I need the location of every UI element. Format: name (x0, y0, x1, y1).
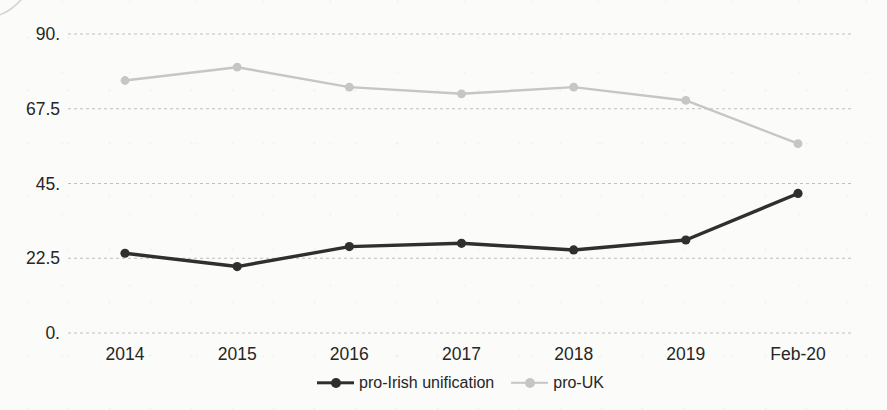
data-point-pro-irish-unification (345, 242, 354, 251)
x-tick-label: 2019 (666, 344, 705, 364)
y-tick-label: 45. (36, 174, 60, 194)
legend: pro-Irish unificationpro-UK (68, 371, 853, 395)
y-tick-label: 22.5 (26, 248, 60, 268)
line-chart: 0.22.545.67.590.201420152016201720182019… (0, 0, 887, 410)
data-point-pro-uk (569, 83, 578, 92)
data-point-pro-irish-unification (457, 239, 466, 248)
legend-item-pro-irish-unification: pro-Irish unification (317, 374, 494, 392)
data-point-pro-uk (345, 83, 354, 92)
x-tick-label: Feb-20 (770, 344, 826, 364)
x-tick-label: 2016 (330, 344, 369, 364)
data-point-pro-uk (794, 139, 803, 148)
x-tick-label: 2015 (218, 344, 257, 364)
data-point-pro-uk (457, 89, 466, 98)
data-point-pro-irish-unification (793, 189, 802, 198)
series-line-pro-uk (125, 67, 798, 143)
data-point-pro-uk (121, 76, 130, 85)
data-point-pro-irish-unification (233, 262, 242, 271)
x-tick-label: 2018 (554, 344, 593, 364)
data-point-pro-irish-unification (569, 245, 578, 254)
x-tick-label: 2014 (106, 344, 145, 364)
y-tick-label: 67.5 (26, 99, 60, 119)
data-point-pro-irish-unification (120, 249, 129, 258)
data-point-pro-uk (681, 96, 690, 105)
legend-item-pro-uk: pro-UK (511, 374, 604, 392)
scan-artifact (0, 0, 26, 16)
legend-marker-icon (511, 377, 548, 389)
legend-marker-icon (317, 377, 354, 389)
y-tick-label: 90. (36, 24, 60, 44)
legend-label: pro-Irish unification (359, 374, 494, 392)
x-tick-label: 2017 (442, 344, 481, 364)
data-point-pro-uk (233, 63, 242, 72)
plot-area: 0.22.545.67.590.201420152016201720182019… (0, 0, 887, 410)
data-point-pro-irish-unification (681, 235, 690, 244)
legend-label: pro-UK (553, 374, 604, 392)
y-tick-label: 0. (45, 323, 60, 343)
series-line-pro-irish-unification (125, 193, 798, 266)
